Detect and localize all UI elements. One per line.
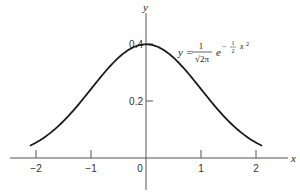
formula-exp-den: 2	[232, 48, 235, 54]
formula-exp-pow: 2	[246, 41, 249, 47]
formula-lhs: y =	[177, 46, 193, 58]
x-ticks: −2−1012	[30, 150, 259, 174]
formula-base: e	[216, 46, 221, 58]
formula-denominator: √2π	[195, 54, 209, 64]
formula-exp-num: 1	[232, 40, 235, 46]
x-tick-label: −1	[85, 163, 97, 174]
normal-curve-chart: y x −2−1012 0.20.4 y = 1 √2π e − 1 2 x 2	[0, 0, 300, 196]
x-tick-label: −2	[30, 163, 42, 174]
x-axis-label: x	[290, 152, 296, 164]
formula-exp-sign: −	[222, 42, 227, 51]
x-tick-label: 0	[137, 163, 143, 174]
y-tick-label: 0.2	[129, 96, 143, 107]
formula-exp-var: x	[239, 42, 244, 51]
x-tick-label: 2	[253, 163, 259, 174]
formula-annotation: y = 1 √2π e − 1 2 x 2	[177, 40, 249, 64]
formula-numerator: 1	[199, 41, 204, 51]
y-axis-label: y	[142, 1, 148, 13]
y-ticks: 0.20.4	[129, 39, 153, 107]
x-tick-label: 1	[198, 163, 204, 174]
